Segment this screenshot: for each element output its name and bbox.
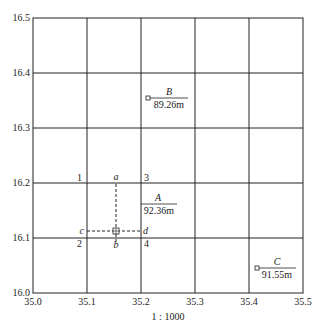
- construction-label-d: d: [143, 225, 149, 236]
- y-tick-label: 16.3: [13, 122, 31, 133]
- y-tick-label: 16.2: [13, 177, 31, 188]
- y-tick-label: 16.4: [13, 67, 31, 78]
- map-frame: [33, 18, 303, 293]
- grid-map: 16.5 16.4 16.3 16.2 16.1 16.0 35.0 35.1 …: [0, 0, 321, 333]
- scale-label: 1 : 1000: [152, 311, 185, 322]
- point-b-elevation: 89.26m: [154, 99, 185, 110]
- y-tick-label: 16.5: [13, 12, 31, 23]
- corner-label-4: 4: [144, 238, 149, 249]
- point-b-name: B: [166, 86, 172, 97]
- corner-label-3: 3: [144, 172, 149, 183]
- point-b-marker: [146, 96, 150, 100]
- x-tick-label: 35.1: [78, 296, 96, 307]
- y-tick-label: 16.1: [13, 232, 31, 243]
- construction-label-b: b: [114, 239, 119, 250]
- x-tick-label: 35.2: [132, 296, 150, 307]
- corner-label-2: 2: [77, 238, 82, 249]
- construction-label-c: c: [80, 225, 85, 236]
- point-a-name: A: [154, 192, 162, 203]
- point-c-elevation: 91.55m: [262, 269, 293, 280]
- corner-label-1: 1: [77, 172, 82, 183]
- x-tick-label: 35.5: [294, 296, 312, 307]
- point-c-name: C: [274, 256, 281, 267]
- x-tick-label: 35.0: [24, 296, 42, 307]
- point-a-elevation: 92.36m: [144, 205, 175, 216]
- x-tick-label: 35.4: [240, 296, 258, 307]
- x-tick-label: 35.3: [186, 296, 204, 307]
- point-c-marker: [255, 266, 259, 270]
- construction-label-a: a: [114, 171, 119, 182]
